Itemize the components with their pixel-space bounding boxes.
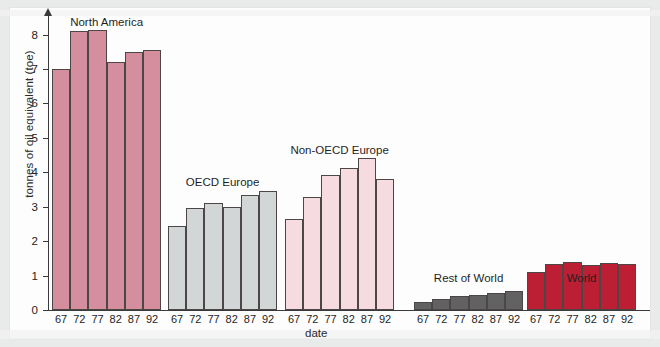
bar: [563, 262, 581, 310]
y-axis-tick-mark: [43, 310, 49, 311]
x-axis-tick-label: 67: [171, 313, 183, 325]
bar: [204, 203, 222, 310]
x-axis-line: [48, 310, 650, 311]
bar: [70, 31, 88, 310]
x-axis-tick-label: 67: [417, 313, 429, 325]
y-axis-tick-label: 8: [18, 29, 38, 41]
x-axis-tick-label: 77: [91, 313, 103, 325]
x-axis-tick-label: 72: [73, 313, 85, 325]
x-axis-title: date: [305, 327, 327, 339]
group-label: OECD Europe: [186, 176, 260, 188]
x-axis-tick-label: 92: [262, 313, 274, 325]
bar: [527, 272, 545, 310]
bar: [487, 293, 505, 310]
x-axis-tick-label: 77: [566, 313, 578, 325]
x-axis-tick-label: 72: [189, 313, 201, 325]
x-axis-tick-label: 92: [379, 313, 391, 325]
bar: [223, 207, 241, 310]
x-axis-tick-label: 87: [603, 313, 615, 325]
bar: [414, 302, 432, 310]
x-axis-tick-label: 87: [361, 313, 373, 325]
x-axis-tick-label: 67: [55, 313, 67, 325]
bar: [469, 295, 487, 310]
x-axis-tick-label: 87: [128, 313, 140, 325]
bar: [88, 30, 106, 311]
bar: [432, 299, 450, 310]
x-axis-tick-label: 72: [435, 313, 447, 325]
y-axis-tick-label: 2: [18, 235, 38, 247]
x-axis-tick-label: 67: [288, 313, 300, 325]
y-axis-tick-mark: [43, 69, 49, 70]
y-axis-tick-label: 0: [18, 304, 38, 316]
bar: [241, 195, 259, 310]
bar: [125, 52, 143, 310]
x-axis-tick-label: 72: [306, 313, 318, 325]
x-axis-tick-label: 87: [490, 313, 502, 325]
bar: [186, 208, 204, 310]
y-axis-tick-mark: [43, 103, 49, 104]
group-label: North America: [70, 16, 143, 28]
bar: [107, 62, 125, 310]
bar: [168, 226, 186, 310]
bar: [358, 158, 376, 310]
bar: [376, 179, 394, 310]
y-axis-tick-label: 6: [18, 97, 38, 109]
x-axis-tick-label: 82: [226, 313, 238, 325]
group-label: Non-OECD Europe: [290, 144, 388, 156]
y-axis-tick-label: 3: [18, 201, 38, 213]
y-axis-tick-mark: [43, 207, 49, 208]
x-axis-tick-label: 77: [324, 313, 336, 325]
y-axis-tick-label: 7: [18, 63, 38, 75]
x-axis-tick-label: 82: [343, 313, 355, 325]
y-axis-line: [48, 14, 49, 310]
x-axis-tick-label: 67: [530, 313, 542, 325]
y-axis-tick-label: 4: [18, 166, 38, 178]
bar: [340, 168, 358, 310]
group-label: Rest of World: [434, 272, 503, 284]
x-axis-tick-label: 92: [508, 313, 520, 325]
y-axis-tick-mark: [43, 276, 49, 277]
y-axis-tick-mark: [43, 35, 49, 36]
x-axis-tick-label: 82: [585, 313, 597, 325]
bar: [545, 264, 563, 310]
x-axis-tick-label: 92: [146, 313, 158, 325]
bar: [600, 263, 618, 310]
x-axis-tick-label: 72: [548, 313, 560, 325]
y-axis-tick-mark: [43, 138, 49, 139]
y-axis-tick-label: 5: [18, 132, 38, 144]
x-axis-tick-label: 82: [110, 313, 122, 325]
x-axis-tick-label: 77: [207, 313, 219, 325]
bar: [52, 69, 70, 310]
bar: [259, 191, 277, 310]
bar: [143, 50, 161, 310]
bar-chart-plot: tonnes of oil equivalent (toe) date 0123…: [0, 0, 660, 347]
bar: [618, 264, 636, 310]
bar: [505, 291, 523, 310]
chart-page: tonnes of oil equivalent (toe) date 0123…: [0, 0, 660, 347]
x-axis-tick-label: 82: [472, 313, 484, 325]
y-axis-tick-mark: [43, 241, 49, 242]
bar: [450, 296, 468, 310]
x-axis-tick-label: 77: [453, 313, 465, 325]
group-label: World: [567, 272, 597, 284]
y-axis-tick-mark: [43, 172, 49, 173]
bar: [321, 175, 339, 310]
x-axis-tick-label: 92: [621, 313, 633, 325]
y-axis-title: tonnes of oil equivalent (toe): [23, 29, 35, 219]
bar: [285, 219, 303, 310]
x-axis-tick-label: 87: [244, 313, 256, 325]
bar: [303, 197, 321, 310]
y-axis-tick-label: 1: [18, 270, 38, 282]
